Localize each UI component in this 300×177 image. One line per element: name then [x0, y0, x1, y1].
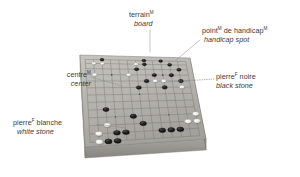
label-board-fr: terrainM	[129, 10, 154, 19]
black-stone	[140, 121, 147, 126]
label-black-stone-en: black stone	[216, 82, 256, 91]
white-stone	[134, 63, 139, 66]
black-stone	[134, 68, 139, 71]
label-handicap-spot-en: handicap spot	[204, 36, 267, 45]
black-stone	[113, 130, 120, 135]
black-stone	[114, 138, 122, 143]
white-stone	[194, 119, 201, 124]
black-stone	[159, 128, 166, 133]
label-white-stone: pierreF blanche white stone	[13, 119, 62, 136]
label-white-stone-fr: pierreF blanche	[13, 118, 62, 127]
black-stone	[103, 108, 109, 113]
label-center-fr: centreM	[67, 70, 91, 79]
label-white-stone-en: white stone	[17, 128, 62, 137]
label-board: terrainM board	[129, 11, 154, 28]
label-center: centreM center	[41, 71, 91, 88]
label-black-stone-fr: pierreF noire	[216, 72, 256, 81]
black-stone	[130, 114, 137, 119]
black-stone	[142, 63, 147, 66]
white-stone	[92, 62, 97, 65]
black-stone	[168, 63, 173, 66]
label-handicap-spot-fr: pointM de handicapM	[202, 26, 267, 35]
black-stone	[159, 60, 163, 63]
white-stone	[96, 140, 104, 145]
black-stone	[142, 59, 146, 62]
white-stone	[100, 62, 105, 65]
label-board-en: board	[133, 20, 154, 29]
black-stone	[105, 139, 113, 144]
white-stone	[193, 112, 200, 117]
white-stone	[95, 131, 102, 136]
black-stone	[122, 130, 129, 135]
label-black-stone: pierreF noire black stone	[216, 73, 256, 90]
black-stone	[168, 127, 175, 132]
black-stone	[100, 58, 104, 61]
black-stone	[177, 68, 182, 71]
figure-canvas: terrainM board pointM de handicapM handi…	[0, 0, 300, 177]
leader-handicap	[176, 40, 200, 60]
label-handicap-spot: pointM de handicapM handicap spot	[202, 27, 267, 44]
label-center-en: center	[41, 80, 91, 89]
white-stone	[185, 119, 192, 124]
black-stone	[177, 127, 184, 132]
